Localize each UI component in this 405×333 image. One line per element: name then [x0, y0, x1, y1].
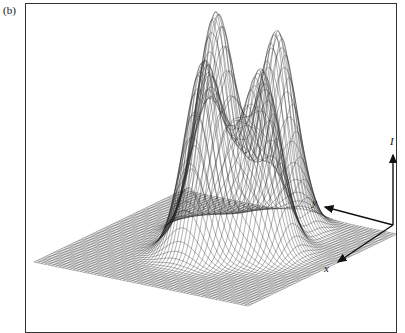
mesh-line-v [143, 90, 357, 254]
mesh-line-v [168, 141, 382, 241]
y-axis-arrow [325, 207, 393, 225]
mesh-line-u [116, 37, 265, 279]
mesh-line-u [52, 194, 201, 266]
mesh-line-u [170, 78, 319, 290]
mesh-line-u [70, 197, 219, 269]
mesh-line-u [162, 39, 311, 289]
mesh-line-u [212, 227, 361, 299]
mesh-line-u [187, 93, 336, 294]
mesh-line-u [77, 199, 226, 271]
mesh-line-v [118, 52, 332, 265]
y-axis-label: y [311, 196, 317, 208]
mesh-line-u [141, 60, 290, 284]
mesh-line-u [227, 230, 376, 302]
mesh-line-u [152, 43, 301, 286]
mesh-line-u [223, 229, 372, 301]
x-axis-label: x [323, 262, 329, 274]
mesh-line-u [55, 194, 204, 266]
mesh-line-v [156, 35, 370, 247]
mesh-line-u [220, 228, 369, 300]
wireframe-mesh [34, 12, 397, 306]
mesh-line-v [79, 210, 293, 284]
intensity-axis-label: I [389, 135, 395, 147]
mesh-line-u [34, 190, 183, 262]
x-axis-arrow [338, 225, 393, 262]
mesh-line-u [244, 233, 393, 305]
mesh-line-u [66, 197, 215, 269]
mesh-line-u [241, 233, 390, 305]
axis-indicator: I y x [311, 135, 395, 274]
mesh-line-u [230, 230, 379, 302]
mesh-line-u [45, 192, 194, 264]
